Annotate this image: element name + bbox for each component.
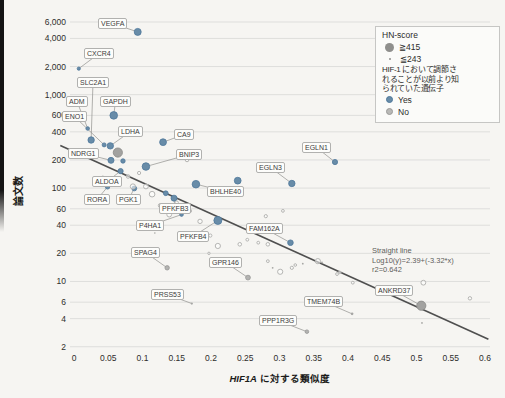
x-axis-title-gene: HIF1A xyxy=(229,373,256,384)
data-point-cxcr4 xyxy=(77,67,80,70)
data-point xyxy=(154,232,156,234)
data-point xyxy=(278,269,283,274)
trend-line-annotation: Straight line Log10(y)=2.39+(-3.32*x) r2… xyxy=(372,246,454,275)
gene-label: ALDOA xyxy=(92,176,122,187)
data-point-aldoa xyxy=(118,168,123,173)
y-tick-label: 4,000 xyxy=(0,33,66,43)
gene-label: FAM162A xyxy=(246,223,283,234)
gene-label: PRSS53 xyxy=(151,289,184,300)
annotation-line3: r2=0.642 xyxy=(372,265,454,275)
y-tick-label: 10 xyxy=(0,276,66,286)
gene-label: SLC2A1 xyxy=(77,77,109,88)
data-point xyxy=(121,159,125,163)
y-tick-label: 400 xyxy=(0,127,66,137)
data-point xyxy=(315,259,320,264)
data-point xyxy=(209,234,212,237)
gene-label: LDHA xyxy=(118,126,143,137)
gene-label: EGLN3 xyxy=(256,162,285,173)
gene-label: RORA xyxy=(84,194,110,205)
legend-item-label: ≧415 xyxy=(399,42,420,52)
gene-label: GAPDH xyxy=(100,96,131,107)
data-point xyxy=(264,215,267,218)
gene-label: TMEM74B xyxy=(304,296,343,307)
data-point-gapdh xyxy=(110,112,118,120)
x-tick-label: 0.55 xyxy=(434,353,468,363)
scatter-plot-figure: 6,0004,0002,0001,00060040020010060402010… xyxy=(0,0,505,398)
data-point-egln3 xyxy=(289,180,295,186)
gene-label: VEGFA xyxy=(98,18,127,29)
data-point-prss53 xyxy=(191,302,193,304)
trend-line xyxy=(60,145,488,339)
data-point-ldha xyxy=(107,143,113,149)
data-point xyxy=(351,281,354,284)
data-point-bhlhe40 xyxy=(192,180,200,188)
legend-item-hn-small: ≦243 xyxy=(382,53,494,65)
legend-known-text-line1: HIF-1 において調節さ xyxy=(382,65,494,75)
gene-label: P4HA1 xyxy=(136,220,164,231)
legend-known-text-line3: られていた遺伝子 xyxy=(382,84,494,94)
data-point xyxy=(266,260,269,263)
legend-item-label: No xyxy=(398,107,409,117)
gene-label: EGLN1 xyxy=(302,142,331,153)
y-tick-label: 1,000 xyxy=(0,90,66,100)
yes-circle-icon xyxy=(386,96,393,103)
data-point xyxy=(257,241,260,244)
data-point xyxy=(137,171,140,174)
gene-label: PFKFB3 xyxy=(159,203,191,214)
gene-label: CXCR4 xyxy=(84,48,114,59)
gene-label: ADM xyxy=(66,96,88,107)
x-axis-title-rest: に対する類似度 xyxy=(257,373,330,384)
gene-label: BNIP3 xyxy=(176,149,202,160)
data-point-gpr146 xyxy=(246,275,251,280)
data-point xyxy=(208,252,210,254)
data-point xyxy=(198,219,202,223)
data-point-egln1 xyxy=(332,159,337,164)
annotation-line2: Log10(y)=2.39+(-3.32*x) xyxy=(372,256,454,266)
y-tick-label: 600 xyxy=(0,110,66,120)
gene-label: SPAG4 xyxy=(131,247,160,258)
data-point-slc2a1 xyxy=(88,137,94,143)
x-tick-label: 0.1 xyxy=(126,353,160,363)
data-point xyxy=(144,184,149,189)
y-tick-label: 6,000 xyxy=(0,17,66,27)
legend-item-hn-big: ≧415 xyxy=(382,41,494,53)
gene-label: PGK1 xyxy=(116,194,141,205)
x-tick-label: 0.4 xyxy=(331,353,365,363)
x-tick-label: 0.5 xyxy=(400,353,434,363)
data-point-vegfa xyxy=(134,28,141,35)
data-point xyxy=(468,297,471,300)
x-tick-label: 0.3 xyxy=(263,353,297,363)
x-tick-label: 0.2 xyxy=(194,353,228,363)
x-tick-label: 0.05 xyxy=(91,353,125,363)
x-tick-label: 0 xyxy=(57,353,91,363)
data-point xyxy=(290,266,293,269)
no-circle-icon xyxy=(386,108,393,115)
gene-label: GPR146 xyxy=(209,257,242,268)
data-point xyxy=(234,177,241,184)
gene-label: PPP1R3G xyxy=(259,315,297,326)
small-dot-icon xyxy=(389,58,391,60)
y-tick-label: 20 xyxy=(0,248,66,258)
y-tick-label: 6 xyxy=(0,297,66,307)
x-tick-label: 0.35 xyxy=(297,353,331,363)
data-point xyxy=(246,238,249,241)
data-point-spag4 xyxy=(165,266,169,270)
data-point xyxy=(163,191,168,196)
data-point-fam162a xyxy=(288,240,294,246)
data-point xyxy=(302,263,304,265)
data-point xyxy=(113,148,122,157)
legend-item-no: No xyxy=(382,106,494,118)
x-axis-title: HIF1A に対する類似度 xyxy=(74,371,485,385)
data-point xyxy=(282,209,285,212)
x-tick-label: 0.25 xyxy=(228,353,262,363)
gene-label: NDRG1 xyxy=(68,148,99,159)
gene-label: ENO1 xyxy=(62,111,87,122)
data-point-eno1 xyxy=(102,143,106,147)
data-point-ca9 xyxy=(160,139,167,146)
annotation-line1: Straight line xyxy=(372,246,454,256)
data-point-ppp1r3g xyxy=(305,330,309,334)
data-point xyxy=(126,175,130,179)
y-tick-label: 2 xyxy=(0,342,66,352)
data-point xyxy=(421,322,423,324)
data-point xyxy=(130,184,135,189)
